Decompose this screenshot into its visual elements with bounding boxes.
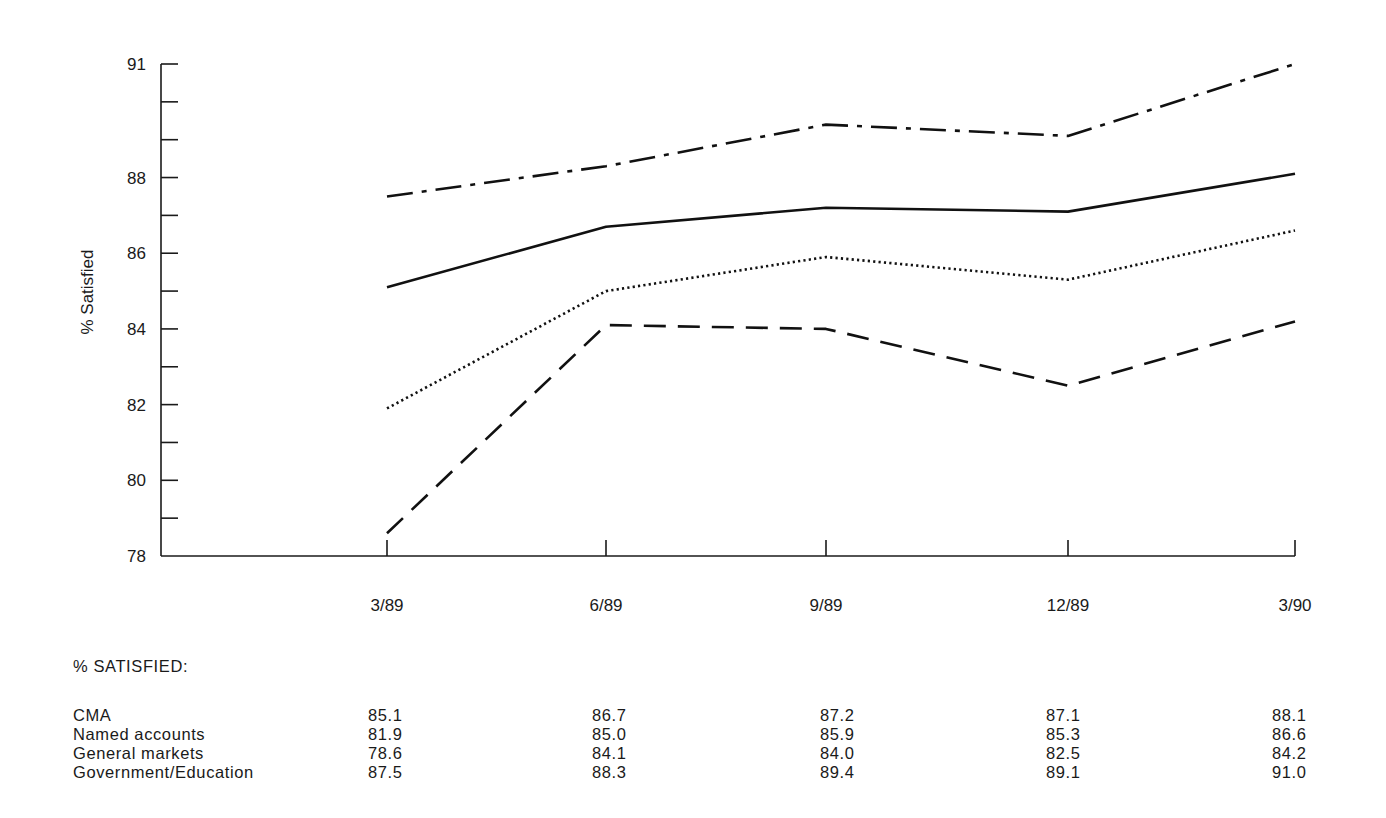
table-row: CMA 85.1 86.7 87.2 87.1 88.1 <box>73 706 1333 725</box>
table-cell: 84.0 <box>820 744 855 763</box>
y-tick-label: 82 <box>127 396 146 415</box>
series-line-named-accounts <box>387 231 1295 409</box>
table-cell: 85.3 <box>1046 725 1081 744</box>
row-label: General markets <box>73 744 204 763</box>
x-tick-label: 3/90 <box>1278 596 1311 615</box>
table-cell: 82.5 <box>1046 744 1081 763</box>
x-tick-label: 3/89 <box>370 596 403 615</box>
y-tick-label: 84 <box>127 320 146 339</box>
y-tick-label: 91 <box>127 55 146 74</box>
series-line-cma <box>387 174 1295 287</box>
table-cell: 85.9 <box>820 725 855 744</box>
table-cell: 91.0 <box>1272 763 1307 782</box>
table-title: % SATISFIED: <box>73 657 188 676</box>
table-cell: 87.5 <box>368 763 403 782</box>
row-label: CMA <box>73 706 111 725</box>
x-tick-label: 6/89 <box>589 596 622 615</box>
table-cell: 89.4 <box>820 763 855 782</box>
table-row: Government/Education 87.5 88.3 89.4 89.1… <box>73 763 1333 782</box>
table-cell: 89.1 <box>1046 763 1081 782</box>
x-axis: 3/896/899/8912/893/90 <box>161 540 1312 615</box>
table-cell: 86.6 <box>1272 725 1307 744</box>
table-cell: 88.3 <box>592 763 627 782</box>
row-label: Named accounts <box>73 725 205 744</box>
table-cell: 87.2 <box>820 706 855 725</box>
series-lines <box>387 64 1295 533</box>
y-tick-label: 86 <box>127 244 146 263</box>
table-cell: 87.1 <box>1046 706 1081 725</box>
table-cell: 85.0 <box>592 725 627 744</box>
table-cell: 88.1 <box>1272 706 1307 725</box>
y-tick-label: 78 <box>127 547 146 566</box>
table-cell: 85.1 <box>368 706 403 725</box>
data-table: CMA 85.1 86.7 87.2 87.1 88.1 Named accou… <box>73 706 1333 782</box>
table-cell: 84.1 <box>592 744 627 763</box>
y-tick-label: 88 <box>127 169 146 188</box>
table-cell: 78.6 <box>368 744 403 763</box>
y-axis-title: % Satisfied <box>78 249 97 334</box>
table-cell: 84.2 <box>1272 744 1307 763</box>
table-cell: 81.9 <box>368 725 403 744</box>
x-tick-label: 9/89 <box>809 596 842 615</box>
line-chart: 91888684828078 3/896/899/8912/893/90 % S… <box>0 0 1386 640</box>
table-cell: 86.7 <box>592 706 627 725</box>
table-row: General markets 78.6 84.1 84.0 82.5 84.2 <box>73 744 1333 763</box>
series-line-government-education <box>387 64 1295 197</box>
row-label: Government/Education <box>73 763 254 782</box>
y-tick-label: 80 <box>127 471 146 490</box>
series-line-general-markets <box>387 321 1295 533</box>
table-row: Named accounts 81.9 85.0 85.9 85.3 86.6 <box>73 725 1333 744</box>
x-tick-label: 12/89 <box>1047 596 1090 615</box>
y-axis: 91888684828078 <box>127 55 178 566</box>
